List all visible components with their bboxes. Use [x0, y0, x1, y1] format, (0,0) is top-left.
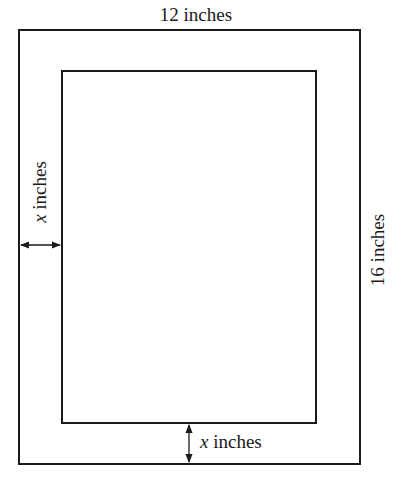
left-border-unit: inches — [29, 161, 50, 210]
top-width-label: 12 inches — [160, 4, 232, 25]
outer-frame-rect — [19, 30, 360, 464]
right-height-label: 16 inches — [367, 214, 388, 286]
inner-picture-rect — [62, 71, 316, 423]
bottom-border-label: x inches — [199, 431, 262, 452]
frame-diagram: 12 inches x inches 16 inches x inches — [0, 0, 401, 477]
bottom-border-unit: inches — [213, 431, 262, 452]
left-border-label: x inches — [29, 161, 50, 224]
